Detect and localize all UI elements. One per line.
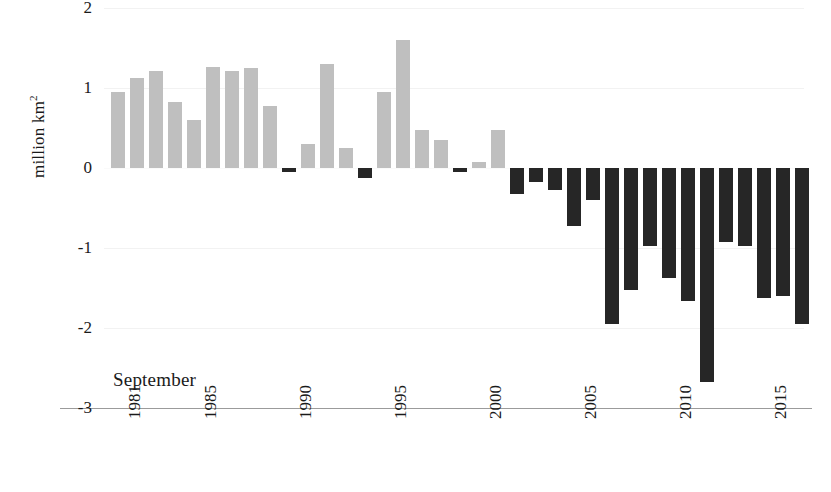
bar-1998 bbox=[434, 140, 448, 168]
bar-1990 bbox=[282, 168, 296, 172]
bar-1983 bbox=[149, 71, 163, 168]
bar-1999 bbox=[453, 168, 467, 172]
bar-1988 bbox=[244, 68, 258, 168]
bar-2007 bbox=[605, 168, 619, 324]
bar-2006 bbox=[586, 168, 600, 200]
bar-1986 bbox=[206, 67, 220, 168]
y-axis-title-superscript: 2 bbox=[27, 95, 39, 101]
bar-1997 bbox=[415, 130, 429, 168]
y-axis-title-text: million km bbox=[29, 101, 48, 178]
bar-1985 bbox=[187, 120, 201, 168]
bar-2011 bbox=[681, 168, 695, 301]
bar-2001 bbox=[491, 130, 505, 168]
bar-1989 bbox=[263, 106, 277, 168]
bar-2015 bbox=[757, 168, 771, 298]
gridline-neg1 bbox=[104, 248, 804, 249]
x-tick-label-1995: 1995 bbox=[392, 359, 409, 419]
series-label: September bbox=[113, 370, 196, 389]
bar-2016 bbox=[776, 168, 790, 296]
bar-2013 bbox=[719, 168, 733, 242]
x-tick-label-2005: 2005 bbox=[582, 359, 599, 419]
bar-1992 bbox=[320, 64, 334, 168]
x-tick-label-1985: 1985 bbox=[202, 359, 219, 419]
bar-1981 bbox=[111, 92, 125, 168]
x-tick-label-1990: 1990 bbox=[297, 359, 314, 419]
y-tick-label-neg1: -1 bbox=[50, 239, 92, 256]
gridline-neg3 bbox=[60, 408, 812, 409]
bar-1993 bbox=[339, 148, 353, 168]
x-tick-label-2000: 2000 bbox=[487, 359, 504, 419]
bar-2012 bbox=[700, 168, 714, 382]
bar-1995 bbox=[377, 92, 391, 168]
bar-2004 bbox=[548, 168, 562, 190]
bar-2017 bbox=[795, 168, 809, 324]
bar-2003 bbox=[529, 168, 543, 182]
y-axis-title: million km2 bbox=[22, 8, 44, 178]
bar-chart: million km2 210-1-2-3 198119851990199520… bbox=[0, 0, 831, 492]
y-tick-label-neg3: -3 bbox=[50, 399, 92, 416]
bar-2002 bbox=[510, 168, 524, 194]
bar-2014 bbox=[738, 168, 752, 246]
bar-2000 bbox=[472, 162, 486, 168]
y-tick-label-neg2: -2 bbox=[50, 319, 92, 336]
bar-1994 bbox=[358, 168, 372, 178]
y-tick-label-1: 1 bbox=[50, 79, 92, 96]
bar-1996 bbox=[396, 40, 410, 168]
bar-2009 bbox=[643, 168, 657, 246]
gridline-neg2 bbox=[104, 328, 804, 329]
x-tick-label-2015: 2015 bbox=[772, 359, 789, 419]
bar-1987 bbox=[225, 71, 239, 168]
gridline-2 bbox=[104, 8, 804, 9]
bar-2010 bbox=[662, 168, 676, 278]
y-tick-label-0: 0 bbox=[50, 159, 92, 176]
x-tick-label-2010: 2010 bbox=[677, 359, 694, 419]
bar-1984 bbox=[168, 102, 182, 168]
bar-1991 bbox=[301, 144, 315, 168]
plot-area bbox=[104, 8, 804, 408]
bar-1982 bbox=[130, 78, 144, 168]
bar-2008 bbox=[624, 168, 638, 290]
y-tick-label-2: 2 bbox=[50, 0, 92, 16]
bar-2005 bbox=[567, 168, 581, 226]
